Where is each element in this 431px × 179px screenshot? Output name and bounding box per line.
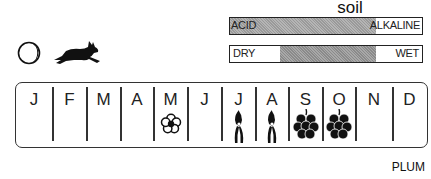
month-aug: A bbox=[256, 83, 288, 147]
dry-label: DRY bbox=[233, 47, 255, 59]
acid-label: ACID bbox=[231, 19, 256, 31]
month-jun: J bbox=[188, 83, 221, 147]
month-dec: D bbox=[393, 83, 426, 147]
month-jul: J bbox=[222, 83, 255, 147]
plant-name: PLUM bbox=[392, 160, 425, 174]
fruit-cluster-icon bbox=[289, 109, 322, 141]
running-hare-icon bbox=[52, 40, 102, 66]
month-jan: J bbox=[16, 83, 52, 147]
moisture-range-fill bbox=[280, 46, 376, 62]
soil-title: soil bbox=[300, 0, 400, 18]
flower-icon bbox=[154, 113, 187, 135]
month-nov: N bbox=[356, 83, 392, 147]
month-mar: M bbox=[87, 83, 120, 147]
fruit-cluster-icon bbox=[323, 109, 355, 141]
soil-moisture-bar: DRY WET bbox=[229, 45, 423, 63]
month-may: M bbox=[154, 83, 187, 147]
month-feb: F bbox=[53, 83, 86, 147]
soil-ph-bar: ACID ALKALINE bbox=[229, 17, 423, 35]
month-apr: A bbox=[121, 83, 153, 147]
moon-icon bbox=[17, 41, 41, 65]
wet-label: WET bbox=[395, 47, 419, 59]
pruning-shears-icon bbox=[222, 110, 255, 144]
pruning-shears-icon bbox=[256, 110, 288, 144]
month-oct: O bbox=[323, 83, 355, 147]
month-sep: S bbox=[289, 83, 322, 147]
month-calendar: J F M A M J bbox=[15, 82, 428, 148]
alkaline-label: ALKALINE bbox=[370, 19, 420, 31]
